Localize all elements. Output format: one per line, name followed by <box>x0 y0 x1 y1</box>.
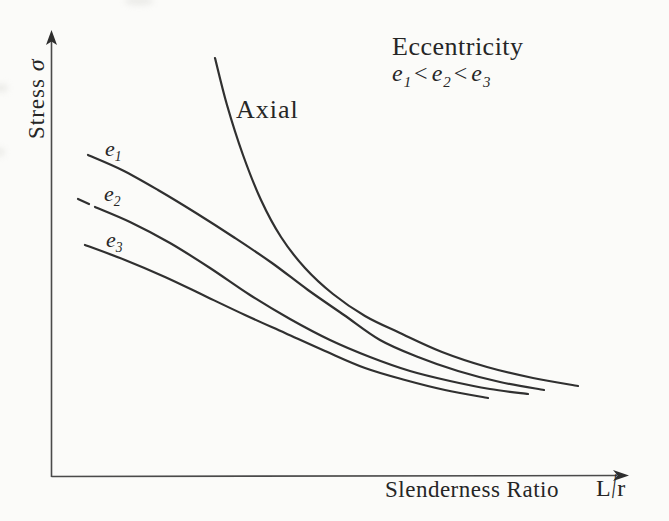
legend-e1: e1 <box>392 60 411 86</box>
unit-numerator: L <box>596 475 611 501</box>
y-axis-label-text: Stress <box>24 78 49 139</box>
plot-svg <box>0 0 669 521</box>
figure-canvas: Stress σ Slenderness Ratio L/r Eccentric… <box>0 0 669 521</box>
curve-e2-lead-dash <box>78 199 89 204</box>
curve-label-e1: e1 <box>105 137 122 160</box>
y-axis-label: Stress σ <box>24 58 49 139</box>
less-than-sign: < <box>411 60 432 86</box>
curve-label-axial: Axial <box>236 96 299 123</box>
legend-relation: e1<e2<e3 <box>392 61 524 86</box>
legend-e2: e2 <box>432 60 451 86</box>
curve-e2 <box>95 207 528 394</box>
sigma-symbol: σ <box>23 58 49 71</box>
curve-label-e3: e3 <box>106 228 123 251</box>
axes <box>46 30 629 481</box>
legend: Eccentricity e1<e2<e3 <box>392 33 524 86</box>
curves <box>78 58 578 398</box>
x-axis-label: Slenderness Ratio <box>385 478 559 502</box>
less-than-sign: < <box>451 60 472 86</box>
legend-title: Eccentricity <box>392 33 524 60</box>
x-axis-unit-label: L/r <box>596 476 625 501</box>
legend-e3: e3 <box>471 60 490 86</box>
curve-label-e2: e2 <box>104 182 121 205</box>
